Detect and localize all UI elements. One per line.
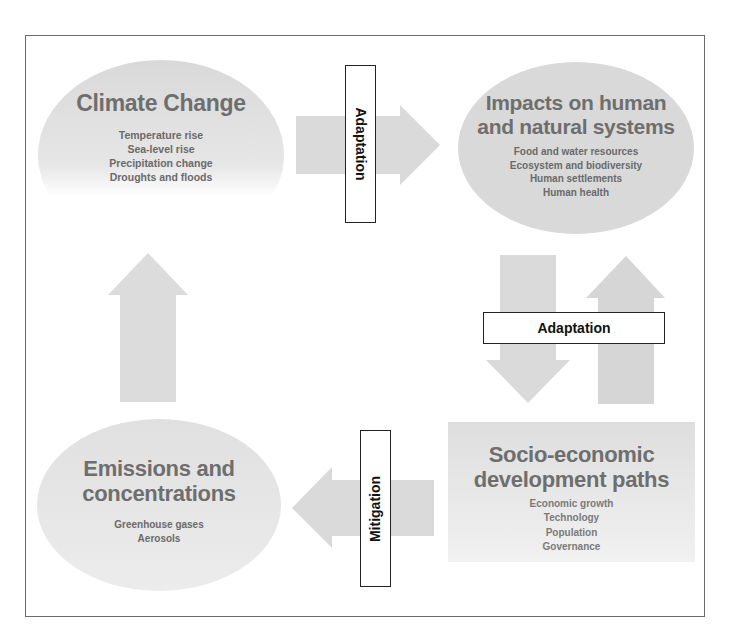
item: Aerosols	[114, 532, 203, 546]
item: Economic growth	[530, 497, 614, 512]
climate-change-title: Climate Change	[76, 90, 246, 116]
mitigation-text: Mitigation	[368, 475, 384, 541]
socio-title-line1: Socio-economic	[474, 442, 669, 467]
item: Food and water resources	[510, 145, 642, 159]
node-climate-change: Climate Change Temperature rise Sea-leve…	[38, 60, 284, 250]
emissions-title-line2: concentrations	[82, 481, 236, 506]
emissions-title-line1: Emissions and	[82, 456, 236, 481]
item: Greenhouse gases	[114, 518, 203, 532]
item: Temperature rise	[109, 128, 212, 142]
adaptation-top-text: Adaptation	[353, 107, 369, 180]
emissions-items: Greenhouse gases Aerosols	[114, 518, 203, 546]
item: Precipitation change	[109, 156, 212, 170]
impacts-items: Food and water resources Ecosystem and b…	[510, 145, 642, 199]
emissions-title: Emissions and concentrations	[82, 456, 236, 507]
item: Ecosystem and biodiversity	[510, 159, 642, 173]
label-adaptation-top: Adaptation	[345, 65, 376, 223]
impacts-title-line2: and natural systems	[477, 115, 674, 139]
adaptation-right-text: Adaptation	[537, 320, 610, 336]
socio-title-line2: development paths	[474, 467, 669, 492]
item: Droughts and floods	[109, 170, 212, 184]
item: Human health	[510, 186, 642, 200]
node-impacts: Impacts on human and natural systems Foo…	[458, 62, 694, 234]
impacts-title-line1: Impacts on human	[477, 91, 674, 115]
arrow-up-left-icon	[108, 253, 188, 402]
item: Sea-level rise	[109, 142, 212, 156]
item: Technology	[530, 511, 614, 526]
item: Population	[530, 526, 614, 541]
node-emissions: Emissions and concentrations Greenhouse …	[37, 419, 281, 591]
node-socio-economic: Socio-economic development paths Economi…	[448, 422, 695, 562]
socio-economic-items: Economic growth Technology Population Go…	[530, 497, 614, 555]
climate-change-items: Temperature rise Sea-level rise Precipit…	[109, 128, 212, 184]
socio-economic-title: Socio-economic development paths	[474, 442, 669, 493]
item: Governance	[530, 540, 614, 555]
impacts-title: Impacts on human and natural systems	[477, 91, 674, 139]
label-adaptation-right: Adaptation	[483, 312, 665, 344]
item: Human settlements	[510, 172, 642, 186]
label-mitigation: Mitigation	[360, 430, 391, 587]
